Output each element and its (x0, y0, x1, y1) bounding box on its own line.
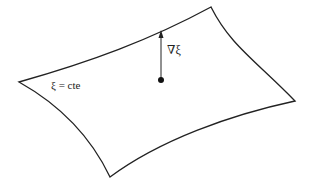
surface-diagram (0, 0, 311, 187)
surface-label: ξ = cte (51, 80, 80, 91)
base-point (158, 77, 164, 83)
gradient-label: ∇ξ (167, 44, 181, 56)
level-surface (19, 7, 295, 177)
